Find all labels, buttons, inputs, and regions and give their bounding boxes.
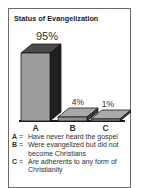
bar-a [21, 44, 61, 121]
chart-title: Status of Evangelization [14, 14, 98, 23]
legend-key-b: B [12, 141, 19, 158]
legend-text-b: Were evangelized but did not become Chri… [28, 141, 128, 158]
bar-b-value-label: 4% [72, 97, 85, 107]
category-label-c: C [102, 123, 108, 133]
evangelization-panel: Status of Evangelization 95% 4% 1% A B [8, 8, 131, 177]
bar-a-front-face [21, 53, 50, 121]
legend-text-c: Are adherents to any form of Christianit… [28, 158, 128, 175]
legend-item-c: C = Are adherents to any form of Christi… [12, 158, 128, 175]
legend-item-a: A = Have never heard the gospel [12, 133, 128, 141]
legend-item-b: B = Were evangelized but did not become … [12, 141, 128, 158]
legend-equals-c: = [19, 158, 28, 175]
bar-c-front-face [91, 119, 120, 121]
bar-a-side-face [50, 44, 61, 121]
legend-key-c: C [12, 158, 19, 175]
evangelization-3d-bar-chart: 95% 4% 1% A B C [10, 25, 131, 133]
legend-text-a: Have never heard the gospel [28, 133, 128, 141]
bar-a-value-label: 95% [36, 30, 58, 42]
chart-legend: A = Have never heard the gospel B = Were… [12, 133, 128, 174]
bar-b-front-face [58, 117, 87, 121]
legend-equals-b: = [19, 141, 28, 158]
legend-equals-a: = [19, 133, 28, 141]
legend-key-a: A [12, 133, 19, 141]
category-label-a: A [32, 123, 38, 133]
category-label-b: B [69, 123, 75, 133]
bar-c-value-label: 1% [102, 99, 115, 109]
